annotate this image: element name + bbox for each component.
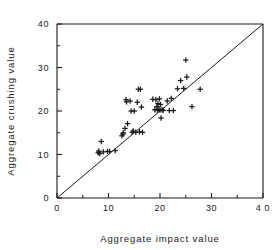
x-tick-label: 4 0 — [256, 203, 270, 213]
x-tick-label: 20 — [154, 203, 165, 213]
y-tick-label: 20 — [38, 106, 49, 116]
y-tick-label: 10 — [38, 150, 49, 160]
scatter-plot-figure: 01020304 0 010203040 Aggregate impact va… — [0, 0, 280, 250]
x-tick-label: 0 — [54, 203, 60, 213]
y-tick-label: 30 — [38, 63, 49, 73]
y-tick-label: 0 — [43, 193, 49, 203]
x-axis-title: Aggregate impact value — [100, 233, 220, 244]
y-tick-label: 40 — [38, 19, 49, 29]
x-tick-label: 10 — [103, 203, 114, 213]
chart-canvas: 01020304 0 010203040 Aggregate impact va… — [0, 0, 280, 250]
x-tick-label: 30 — [206, 203, 217, 213]
chart-background — [0, 0, 280, 250]
y-axis-title: Aggregate crushing value — [5, 46, 16, 175]
